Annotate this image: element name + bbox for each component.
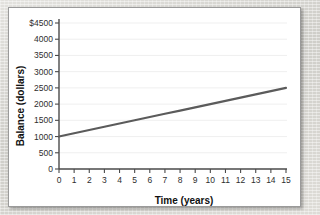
x-tick-label: 8 bbox=[178, 175, 183, 185]
x-tick-label: 4 bbox=[117, 175, 122, 185]
y-tick-label: 1500 bbox=[34, 115, 53, 125]
y-tick-label: 1000 bbox=[34, 132, 53, 142]
x-tick-label: 0 bbox=[57, 175, 62, 185]
x-axis-ticks-group: 0123456789101112131415 bbox=[57, 169, 291, 185]
y-axis-ticks-group: 05001000150020002500300035004000$4500 bbox=[29, 18, 59, 174]
x-tick-label: 2 bbox=[87, 175, 92, 185]
balance-line-series bbox=[59, 88, 286, 137]
x-tick-label: 9 bbox=[193, 175, 198, 185]
y-tick-label: 500 bbox=[39, 148, 53, 158]
x-tick-label: 15 bbox=[281, 175, 291, 185]
y-tick-label: 0 bbox=[48, 164, 53, 174]
x-tick-label: 7 bbox=[163, 175, 168, 185]
x-tick-label: 6 bbox=[147, 175, 152, 185]
y-tick-label: 3000 bbox=[34, 67, 53, 77]
x-tick-label: 12 bbox=[236, 175, 246, 185]
x-tick-label: 13 bbox=[251, 175, 261, 185]
x-tick-label: 5 bbox=[132, 175, 137, 185]
x-tick-label: 11 bbox=[221, 175, 230, 185]
x-tick-label: 1 bbox=[72, 175, 77, 185]
y-tick-label: 4000 bbox=[34, 34, 53, 44]
x-tick-label: 3 bbox=[102, 175, 107, 185]
y-tick-label: 3500 bbox=[34, 50, 53, 60]
y-tick-label: 2500 bbox=[34, 83, 53, 93]
y-tick-label: 2000 bbox=[34, 99, 53, 109]
x-axis-title: Time (years) bbox=[155, 195, 214, 206]
x-tick-label: 14 bbox=[266, 175, 276, 185]
chart-plot-area: 05001000150020002500300035004000$4500 01… bbox=[9, 8, 302, 208]
x-tick-label: 10 bbox=[206, 175, 216, 185]
chart-card: 05001000150020002500300035004000$4500 01… bbox=[8, 7, 301, 207]
y-axis-title: Balance (dollars) bbox=[15, 66, 26, 147]
gridlines-group bbox=[60, 23, 287, 153]
line-chart: 05001000150020002500300035004000$4500 01… bbox=[9, 8, 302, 208]
y-tick-label: $4500 bbox=[29, 18, 53, 28]
